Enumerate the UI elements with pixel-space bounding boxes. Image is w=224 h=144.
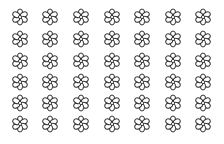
flower-icon <box>194 94 212 112</box>
flower-icon <box>194 8 212 26</box>
flower-icon <box>11 52 29 70</box>
flower-icon <box>72 115 90 133</box>
flower-icon <box>41 52 59 70</box>
flower-icon <box>194 30 212 48</box>
flower-icon <box>103 73 121 91</box>
flower-icon <box>72 8 90 26</box>
flower-icon <box>164 30 182 48</box>
flower-icon <box>133 73 151 91</box>
flower-icon <box>41 73 59 91</box>
flower-icon <box>133 115 151 133</box>
flower-icon <box>72 73 90 91</box>
flower-icon <box>103 94 121 112</box>
flower-icon <box>11 115 29 133</box>
flower-grid <box>0 0 224 144</box>
flower-icon <box>103 30 121 48</box>
flower-icon <box>133 52 151 70</box>
flower-icon <box>194 115 212 133</box>
flower-icon <box>164 94 182 112</box>
flower-icon <box>72 94 90 112</box>
flower-icon <box>164 73 182 91</box>
flower-icon <box>41 94 59 112</box>
flower-icon <box>194 73 212 91</box>
flower-icon <box>41 115 59 133</box>
flower-icon <box>72 30 90 48</box>
flower-icon <box>41 8 59 26</box>
flower-icon <box>41 30 59 48</box>
flower-icon <box>72 52 90 70</box>
flower-icon <box>103 52 121 70</box>
flower-icon <box>133 30 151 48</box>
flower-icon <box>11 8 29 26</box>
flower-icon <box>194 52 212 70</box>
flower-icon <box>164 8 182 26</box>
flower-icon <box>133 8 151 26</box>
flower-icon <box>11 73 29 91</box>
flower-icon <box>103 115 121 133</box>
flower-icon <box>103 8 121 26</box>
flower-icon <box>164 52 182 70</box>
flower-icon <box>133 94 151 112</box>
flower-icon <box>11 94 29 112</box>
flower-icon <box>164 115 182 133</box>
flower-icon <box>11 30 29 48</box>
